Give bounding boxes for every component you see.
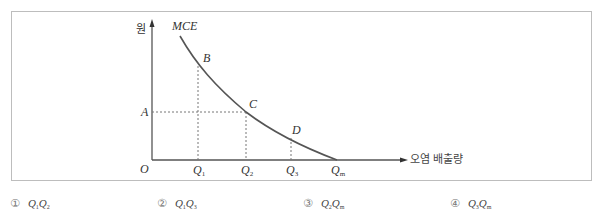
tick-q1: Q1 — [193, 164, 205, 178]
curve-label: MCE — [172, 20, 197, 32]
x-axis-arrow-icon — [400, 158, 408, 163]
choice-4[interactable]: ④ Q3Qm — [450, 197, 491, 210]
origin-label: O — [140, 163, 149, 175]
point-c-label: C — [249, 98, 257, 110]
y-axis-label: 원 — [136, 24, 146, 35]
choice-1[interactable]: ① Q1Q2 — [10, 197, 50, 210]
point-b-label: B — [203, 52, 210, 64]
point-d-label: D — [292, 124, 301, 136]
choice-3[interactable]: ③ Q2Qm — [303, 197, 344, 210]
tick-qm: Qm — [331, 164, 345, 178]
tick-q2: Q2 — [241, 164, 253, 178]
y-axis-arrow-icon — [150, 19, 155, 27]
answer-choices: ① Q1Q2 ② Q1Q3 ③ Q2Qm ④ Q3Qm — [0, 197, 599, 217]
x-axis-label: 오염 배출량 — [410, 154, 464, 165]
price-a-label: A — [141, 106, 148, 118]
mce-diagram — [0, 0, 599, 190]
choice-2[interactable]: ② Q1Q3 — [157, 197, 197, 210]
tick-q3: Q3 — [286, 164, 298, 178]
